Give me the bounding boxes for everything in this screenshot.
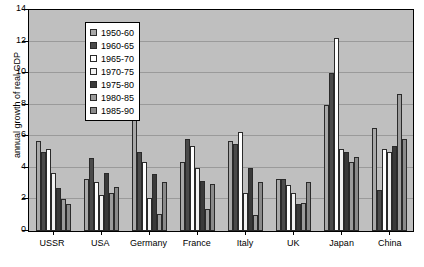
legend-label: 1975-80 xyxy=(101,80,134,90)
x-tick-label: Japan xyxy=(318,238,366,248)
x-tick-label: Germany xyxy=(125,238,173,248)
x-tick-label: China xyxy=(366,238,414,248)
legend-item[interactable]: 1975-80 xyxy=(90,78,134,91)
x-axis-labels: USSRUSAGermanyFranceItalyUKJapanChina xyxy=(28,238,414,248)
legend-swatch-icon xyxy=(90,81,97,88)
legend-label: 1970-75 xyxy=(101,67,134,77)
legend-item[interactable]: 1960-65 xyxy=(90,39,134,52)
legend-swatch-icon xyxy=(90,107,97,114)
bar-group xyxy=(173,10,221,231)
bar-group xyxy=(269,10,317,231)
y-tick-label: 10 xyxy=(0,66,26,76)
legend-item[interactable]: 1965-70 xyxy=(90,52,134,65)
legend-label: 1965-70 xyxy=(101,54,134,64)
y-tick-label: 4 xyxy=(0,161,26,171)
y-tick-label: 0 xyxy=(0,224,26,234)
x-tick-label: France xyxy=(173,238,221,248)
legend-swatch-icon xyxy=(90,55,97,62)
bar[interactable] xyxy=(402,139,407,231)
bar-group xyxy=(221,10,269,231)
legend-swatch-icon xyxy=(90,94,97,101)
x-tick-label: Italy xyxy=(221,238,269,248)
y-tick-label: 6 xyxy=(0,129,26,139)
y-tick-label: 12 xyxy=(0,35,26,45)
legend-label: 1950-60 xyxy=(101,28,134,38)
bar[interactable] xyxy=(162,182,167,231)
legend-label: 1985-90 xyxy=(101,106,134,116)
legend-swatch-icon xyxy=(90,42,97,49)
x-tick-label: USSR xyxy=(28,238,76,248)
x-tick-label: UK xyxy=(269,238,317,248)
legend-swatch-icon xyxy=(90,29,97,36)
legend-swatch-icon xyxy=(90,68,97,75)
y-tick-label: 2 xyxy=(0,192,26,202)
bar-group xyxy=(365,10,413,231)
legend-item[interactable]: 1980-85 xyxy=(90,91,134,104)
bar-group xyxy=(29,10,77,231)
bar[interactable] xyxy=(66,204,71,231)
bar[interactable] xyxy=(210,184,215,231)
y-tick-label: 8 xyxy=(0,98,26,108)
legend-label: 1980-85 xyxy=(101,93,134,103)
plot-area: 1950-601960-651965-701970-751975-801980-… xyxy=(28,9,414,232)
legend-item[interactable]: 1950-60 xyxy=(90,26,134,39)
bar[interactable] xyxy=(114,187,119,231)
bar[interactable] xyxy=(306,182,311,231)
legend-item[interactable]: 1970-75 xyxy=(90,65,134,78)
bar-group xyxy=(317,10,365,231)
chart-container: annual growth of real GDP 02468101214 19… xyxy=(0,0,424,267)
legend: 1950-601960-651965-701970-751975-801980-… xyxy=(85,22,140,121)
legend-item[interactable]: 1985-90 xyxy=(90,104,134,117)
y-tick-label: 14 xyxy=(0,3,26,13)
bar[interactable] xyxy=(258,182,263,231)
legend-label: 1960-65 xyxy=(101,41,134,51)
bar[interactable] xyxy=(354,157,359,231)
x-tick-label: USA xyxy=(76,238,124,248)
